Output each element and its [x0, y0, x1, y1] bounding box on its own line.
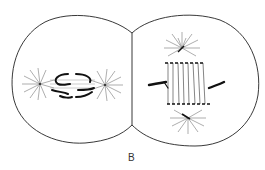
right-chromosomes: [149, 82, 224, 88]
left-aster-left: [22, 68, 54, 100]
left-chromosomes: [52, 74, 94, 98]
cell-diagram: [0, 0, 265, 170]
right-spindle: [165, 63, 210, 104]
right-aster-bottom: [170, 110, 206, 134]
right-aster-top: [164, 32, 200, 56]
left-aster-right: [90, 69, 123, 101]
figure-label: B: [128, 152, 135, 163]
right-cell-outline: [132, 15, 259, 146]
